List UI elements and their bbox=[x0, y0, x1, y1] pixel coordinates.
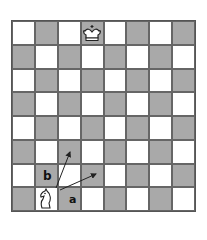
arrow-label-b: b bbox=[43, 169, 52, 183]
knight-icon bbox=[36, 188, 57, 210]
square-c6 bbox=[58, 69, 81, 93]
square-f4 bbox=[126, 116, 149, 140]
square-a7 bbox=[12, 45, 35, 69]
square-f6 bbox=[126, 69, 149, 93]
square-d2 bbox=[81, 164, 104, 188]
square-d4 bbox=[81, 116, 104, 140]
square-d8 bbox=[81, 21, 104, 45]
arrow-label-a: a bbox=[69, 193, 76, 206]
square-d3 bbox=[81, 140, 104, 164]
square-e8 bbox=[104, 21, 127, 45]
square-e6 bbox=[104, 69, 127, 93]
square-h1 bbox=[172, 187, 195, 211]
square-e3 bbox=[104, 140, 127, 164]
square-h2 bbox=[172, 164, 195, 188]
square-e2 bbox=[104, 164, 127, 188]
square-c5 bbox=[58, 92, 81, 116]
square-b4 bbox=[35, 116, 58, 140]
square-b5 bbox=[35, 92, 58, 116]
square-a8 bbox=[12, 21, 35, 45]
square-c2 bbox=[58, 164, 81, 188]
square-f7 bbox=[126, 45, 149, 69]
square-c3 bbox=[58, 140, 81, 164]
square-d5 bbox=[81, 92, 104, 116]
square-a2 bbox=[12, 164, 35, 188]
square-g8 bbox=[149, 21, 172, 45]
square-g7 bbox=[149, 45, 172, 69]
square-h8 bbox=[172, 21, 195, 45]
square-b3 bbox=[35, 140, 58, 164]
square-f8 bbox=[126, 21, 149, 45]
square-h7 bbox=[172, 45, 195, 69]
square-a4 bbox=[12, 116, 35, 140]
square-d1 bbox=[81, 187, 104, 211]
square-e7 bbox=[104, 45, 127, 69]
square-h6 bbox=[172, 69, 195, 93]
square-b1 bbox=[35, 187, 58, 211]
square-g1 bbox=[149, 187, 172, 211]
square-g5 bbox=[149, 92, 172, 116]
square-g2 bbox=[149, 164, 172, 188]
square-h5 bbox=[172, 92, 195, 116]
square-e1 bbox=[104, 187, 127, 211]
square-g3 bbox=[149, 140, 172, 164]
square-c4 bbox=[58, 116, 81, 140]
square-c7 bbox=[58, 45, 81, 69]
square-c8 bbox=[58, 21, 81, 45]
square-d7 bbox=[81, 45, 104, 69]
square-g6 bbox=[149, 69, 172, 93]
square-f1 bbox=[126, 187, 149, 211]
square-b7 bbox=[35, 45, 58, 69]
square-b8 bbox=[35, 21, 58, 45]
square-f5 bbox=[126, 92, 149, 116]
chessboard bbox=[11, 20, 196, 212]
square-e5 bbox=[104, 92, 127, 116]
square-f3 bbox=[126, 140, 149, 164]
king-icon bbox=[82, 22, 103, 44]
square-f2 bbox=[126, 164, 149, 188]
square-a6 bbox=[12, 69, 35, 93]
square-e4 bbox=[104, 116, 127, 140]
square-a5 bbox=[12, 92, 35, 116]
square-h4 bbox=[172, 116, 195, 140]
square-a3 bbox=[12, 140, 35, 164]
square-d6 bbox=[81, 69, 104, 93]
square-h3 bbox=[172, 140, 195, 164]
square-g4 bbox=[149, 116, 172, 140]
square-a1 bbox=[12, 187, 35, 211]
square-b6 bbox=[35, 69, 58, 93]
